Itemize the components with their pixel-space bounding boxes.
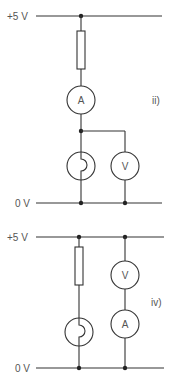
lamp (65, 318, 93, 346)
resistor (77, 31, 85, 69)
circuit-label: iv) (151, 297, 162, 308)
bottom-rail-label: 0 V (15, 363, 30, 374)
svg-text:V: V (122, 270, 129, 281)
resistor (75, 247, 83, 285)
circuit-iv: +5 V V A iv) 0 V (7, 232, 164, 374)
voltmeter: V (111, 152, 139, 180)
circuit-ii: +5 V A V ii) 0 V (7, 11, 162, 209)
bottom-rail-label: 0 V (15, 198, 30, 209)
ammeter: A (111, 310, 139, 338)
circuit-label: ii) (152, 95, 160, 106)
circuit-diagrams: +5 V A V ii) 0 V +5 V (0, 0, 179, 381)
top-rail-label: +5 V (7, 11, 28, 22)
svg-text:A: A (78, 95, 85, 106)
svg-text:V: V (122, 161, 129, 172)
voltmeter: V (111, 261, 139, 289)
ammeter: A (67, 86, 95, 114)
top-rail-label: +5 V (7, 232, 28, 243)
lamp (67, 152, 95, 180)
svg-text:A: A (122, 319, 129, 330)
